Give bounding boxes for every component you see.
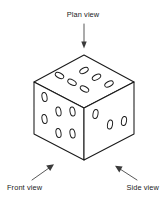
side-view-arrow xyxy=(115,166,137,180)
plan-view-arrow xyxy=(81,24,86,49)
side-view-label: Side view xyxy=(126,183,159,192)
front-view-arrow xyxy=(32,164,54,180)
figure-canvas: Plan view Front view Side view xyxy=(0,0,166,210)
die-projection-figure: Plan view Front view Side view xyxy=(0,0,166,210)
front-view-label: Front view xyxy=(7,183,43,192)
plan-view-label: Plan view xyxy=(67,10,100,19)
